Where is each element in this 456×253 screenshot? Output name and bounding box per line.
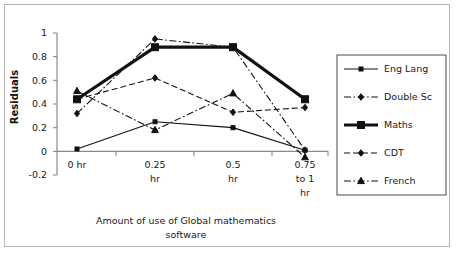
x-category-label: 0 hr bbox=[68, 159, 87, 170]
series-line bbox=[77, 39, 305, 150]
data-point-marker bbox=[359, 67, 363, 71]
y-tick-label: 1 bbox=[41, 27, 47, 38]
x-category-label: 0.25 bbox=[144, 159, 165, 170]
data-point-marker bbox=[74, 87, 81, 93]
y-tick-label: -0.2 bbox=[28, 169, 47, 180]
data-point-marker bbox=[153, 120, 157, 124]
axes bbox=[53, 33, 328, 175]
legend-item-double-sc[interactable]: Double Sc bbox=[344, 91, 432, 102]
data-point-marker bbox=[230, 109, 235, 116]
x-category-label: hr bbox=[300, 187, 310, 198]
data-point-marker bbox=[75, 147, 79, 151]
series-french bbox=[74, 87, 309, 160]
y-tick-label: 0.8 bbox=[32, 51, 47, 62]
x-category-label: to 1 bbox=[296, 173, 315, 184]
x-category-label: 0.75 bbox=[294, 159, 315, 170]
series-layer bbox=[74, 36, 309, 160]
series-line bbox=[77, 47, 305, 99]
x-category-label: hr bbox=[228, 173, 238, 184]
y-axis-tick-labels: 10.80.60.40.20-0.2 bbox=[28, 27, 47, 180]
y-tick-label: 0 bbox=[41, 146, 47, 157]
x-axis-title: Amount of use of Global mathematics bbox=[96, 215, 276, 226]
series-double-sc bbox=[74, 36, 307, 154]
series-cdt bbox=[74, 75, 307, 116]
data-point-marker bbox=[230, 90, 237, 96]
legend-item-cdt[interactable]: CDT bbox=[344, 147, 404, 158]
legend-item-eng-lang[interactable]: Eng Lang bbox=[344, 63, 428, 74]
series-line bbox=[77, 122, 305, 150]
y-tick-label: 0.4 bbox=[32, 98, 47, 109]
chart-legend: Eng LangDouble ScMathsCDTFrench bbox=[337, 55, 446, 195]
y-tick-label: 0.2 bbox=[32, 122, 47, 133]
legend-label: CDT bbox=[384, 147, 404, 158]
series-eng-lang bbox=[75, 120, 307, 152]
x-category-label: 0.5 bbox=[225, 159, 240, 170]
x-axis-category-labels: 0 hr0.25hr0.5hr0.75to 1hr bbox=[68, 159, 316, 198]
data-point-marker bbox=[358, 122, 365, 129]
data-point-marker bbox=[231, 126, 235, 130]
data-point-marker bbox=[358, 177, 365, 183]
data-point-marker bbox=[152, 75, 157, 82]
data-point-marker bbox=[302, 96, 309, 103]
legend-item-maths[interactable]: Maths bbox=[344, 119, 413, 130]
data-point-marker bbox=[302, 104, 307, 111]
series-line bbox=[77, 78, 305, 112]
legend-label: Double Sc bbox=[384, 91, 432, 102]
data-point-marker bbox=[358, 94, 363, 101]
data-point-marker bbox=[230, 44, 237, 51]
residuals-line-chart: 10.80.60.40.20-0.2 0 hr0.25hr0.5hr0.75to… bbox=[0, 0, 456, 253]
data-point-marker bbox=[152, 126, 159, 132]
y-axis-title: Residuals bbox=[9, 70, 20, 124]
y-tick-label: 0.6 bbox=[32, 75, 47, 86]
data-point-marker bbox=[152, 44, 159, 51]
legend-label: French bbox=[384, 175, 416, 186]
legend-label: Maths bbox=[384, 119, 413, 130]
data-point-marker bbox=[358, 150, 363, 157]
x-category-label: hr bbox=[150, 173, 160, 184]
legend-item-french[interactable]: French bbox=[344, 175, 416, 186]
chart-svg: 10.80.60.40.20-0.2 0 hr0.25hr0.5hr0.75to… bbox=[0, 0, 456, 253]
legend-label: Eng Lang bbox=[384, 63, 428, 74]
x-axis-title-line2: software bbox=[166, 229, 207, 240]
